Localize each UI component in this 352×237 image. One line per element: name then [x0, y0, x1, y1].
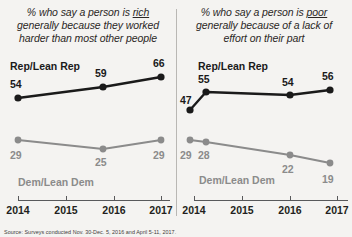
poor-dem-line [190, 140, 330, 163]
rich-dem-line [18, 140, 161, 149]
chart-figure: % who say a person is rich generally bec… [0, 0, 352, 237]
rich-dem-value-2014: 29 [10, 149, 22, 161]
rich-dem-point-2017 [158, 137, 165, 144]
poor-series-dem: 29 28 22 19 Dem/Lean Dem [180, 137, 334, 186]
rich-rep-point-2017 [157, 73, 164, 80]
rich-rep-value-2016: 59 [95, 67, 107, 79]
rich-xtick-2017: 2017 [149, 204, 173, 216]
rich-dem-series-label: Dem/Lean Dem [18, 176, 94, 188]
rich-rep-point-2014 [14, 94, 21, 101]
rich-xtick-2015: 2015 [54, 204, 78, 216]
plot-area-rich: 54 59 66 Rep/Lean Rep 29 25 29 Dem/Lean … [0, 0, 176, 218]
poor-xtick-2016: 2016 [278, 204, 302, 216]
rich-rep-line [18, 77, 161, 98]
rich-dem-value-2017: 29 [153, 149, 165, 161]
poor-rep-series-label: Rep/Lean Rep [198, 60, 268, 72]
poor-dem-point-2014b [203, 139, 210, 146]
poor-rep-point-2017 [326, 86, 333, 93]
poor-x-axis: 2014 2015 2016 2017 [182, 196, 349, 217]
line-chart-poor-svg: 47 55 54 56 Rep/Lean Rep 29 28 22 19 [176, 0, 352, 218]
rich-rep-point-2016 [99, 83, 106, 90]
rich-dem-point-2014 [15, 137, 22, 144]
rich-dem-value-2016: 25 [95, 156, 107, 168]
poor-dem-value-2014b: 28 [198, 149, 210, 161]
line-chart-rich-svg: 54 59 66 Rep/Lean Rep 29 25 29 Dem/Lean … [0, 0, 176, 218]
poor-rep-value-2014a: 47 [180, 94, 192, 106]
rich-series-rep: 54 59 66 Rep/Lean Rep [10, 57, 165, 102]
poor-dem-value-2016: 22 [282, 163, 294, 175]
poor-rep-value-2016: 54 [282, 76, 294, 88]
poor-dem-point-2014a [187, 137, 194, 144]
rich-rep-value-2014: 54 [10, 78, 22, 90]
poor-rep-line [190, 90, 330, 110]
poor-dem-value-2014a: 29 [180, 149, 192, 161]
rich-rep-series-label: Rep/Lean Rep [10, 60, 80, 72]
poor-dem-series-label: Dem/Lean Dem [199, 174, 275, 186]
rich-xtick-2014: 2014 [6, 204, 30, 216]
poor-xtick-2017: 2017 [325, 204, 349, 216]
poor-rep-value-2014b: 55 [198, 73, 210, 85]
poor-xtick-2014: 2014 [182, 204, 206, 216]
plot-area-poor: 47 55 54 56 Rep/Lean Rep 29 28 22 19 [176, 0, 352, 218]
poor-xtick-2015: 2015 [230, 204, 254, 216]
rich-x-axis: 2014 2015 2016 2017 [6, 196, 173, 217]
poor-rep-point-2014a [186, 106, 193, 113]
source-note: Source: Surveys conducted Nov. 30-Dec. 5… [4, 229, 176, 235]
poor-rep-value-2017: 56 [322, 70, 334, 82]
poor-dem-point-2017 [327, 160, 334, 167]
chart-panel-rich: % who say a person is rich generally bec… [0, 0, 176, 218]
rich-rep-value-2017: 66 [153, 57, 165, 69]
rich-dem-point-2016 [100, 146, 107, 153]
poor-rep-point-2014b [202, 88, 209, 95]
poor-series-rep: 47 55 54 56 Rep/Lean Rep [180, 60, 334, 114]
poor-dem-point-2016 [287, 152, 294, 159]
poor-rep-point-2016 [286, 91, 293, 98]
rich-series-dem: 29 25 29 Dem/Lean Dem [10, 137, 165, 188]
rich-xtick-2016: 2016 [102, 204, 126, 216]
chart-panel-poor: % who say a person is poor generally bec… [176, 0, 352, 218]
poor-dem-value-2017: 19 [322, 173, 334, 185]
